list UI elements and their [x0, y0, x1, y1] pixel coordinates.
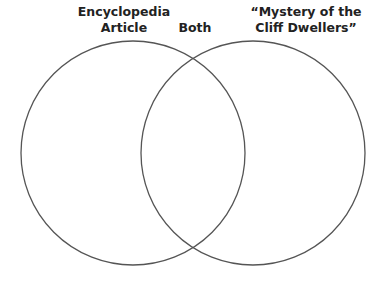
- left-circle: [21, 41, 245, 265]
- venn-diagram: [0, 0, 386, 287]
- right-circle: [141, 41, 365, 265]
